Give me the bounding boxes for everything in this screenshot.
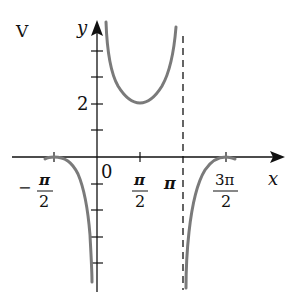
x-axis-label: x xyxy=(268,168,278,189)
x-tick-label-neg-pi-over-2: − π 2 xyxy=(18,171,53,211)
svg-text:−: − xyxy=(18,178,31,197)
svg-text:π: π xyxy=(133,171,146,189)
y-axis-label: y xyxy=(76,17,88,38)
y-tick-label-2: 2 xyxy=(77,93,88,114)
x-tick-label-3pi-over-2: 3π 2 xyxy=(213,171,238,211)
svg-text:2: 2 xyxy=(221,192,231,211)
origin-label: 0 xyxy=(101,161,112,182)
curve-middle-branch xyxy=(106,22,176,103)
chart-svg: V xyxy=(0,0,285,296)
x-tick-label-pi-over-2: π 2 xyxy=(132,171,148,211)
x-tick-label-pi: π xyxy=(163,174,176,193)
chart-figure: V xyxy=(0,0,285,296)
svg-text:2: 2 xyxy=(135,192,145,211)
svg-text:π: π xyxy=(38,171,51,189)
y-axis xyxy=(91,20,103,292)
curve-left-branch xyxy=(45,157,92,282)
panel-label: V xyxy=(15,21,29,41)
svg-text:3π: 3π xyxy=(215,171,235,189)
svg-text:2: 2 xyxy=(39,192,49,211)
